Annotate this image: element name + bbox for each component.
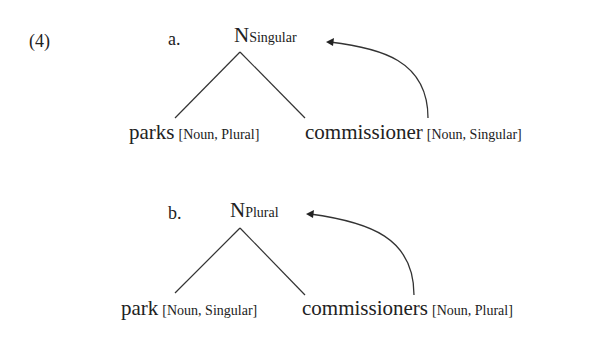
tree-a-left-leaf: parks [Noun, Plural]	[129, 122, 259, 143]
arrow-b	[310, 214, 414, 295]
tree-a-root: NSingular	[234, 25, 297, 46]
tree-a-label: a.	[168, 30, 181, 48]
example-number: (4)	[29, 32, 50, 50]
tree-a-right-leaf: commissioner [Noun, Singular]	[305, 122, 522, 143]
tree-b-label: b.	[168, 204, 182, 222]
tree-b-root: NPlural	[230, 200, 279, 221]
tree-b-right-leaf: commissioners [Noun, Plural]	[302, 298, 513, 319]
linguistics-example: (4) a. NSingular parks [Noun, Plural] co…	[0, 0, 605, 339]
tree-b-branches	[175, 228, 305, 295]
tree-b-left-leaf: park [Noun, Singular]	[121, 298, 257, 319]
tree-lines	[0, 0, 605, 339]
arrow-a	[330, 42, 428, 118]
tree-a-branches	[175, 52, 305, 118]
